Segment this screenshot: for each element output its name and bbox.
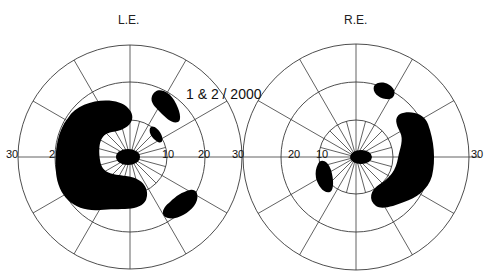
left-eye-label: L.E. [118, 13, 139, 27]
scotomas [56, 90, 198, 218]
left-eye-field: L.E. 30 [6, 13, 242, 269]
central-blind-spot [116, 149, 140, 165]
lower-nasal-scotoma [163, 190, 198, 219]
tick-center-30: 30 [232, 148, 244, 160]
acuity-annotation: 1 & 2 / 2000 [186, 86, 262, 102]
small-paracentral-scotoma [150, 126, 163, 142]
right-eye-field: R.E. 20 10 30 30 [232, 13, 483, 270]
right-eye-label: R.E. [344, 13, 367, 27]
tick-left-10: 10 [316, 148, 328, 160]
tick-left-20: 20 [288, 148, 300, 160]
central-blind-spot [350, 150, 372, 164]
tick-left-30: 30 [6, 148, 18, 160]
visual-field-figure: L.E. 30 [0, 0, 489, 280]
tick-right-20: 20 [198, 148, 210, 160]
crescent-temporal-scotoma [371, 112, 434, 208]
tick-right-30: 30 [471, 148, 483, 160]
scotomas [316, 83, 434, 208]
tick-right-10: 10 [162, 148, 174, 160]
upper-temporal-scotoma [374, 83, 395, 100]
tick-left-20: 2 [49, 148, 55, 160]
upper-nasal-scotoma [151, 90, 180, 122]
nasal-paracentral-scotoma [316, 161, 334, 193]
